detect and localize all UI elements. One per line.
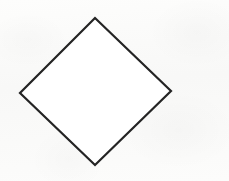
diamond-shape [20, 18, 171, 165]
figure-canvas [0, 0, 229, 181]
diamond-figure [0, 0, 229, 181]
